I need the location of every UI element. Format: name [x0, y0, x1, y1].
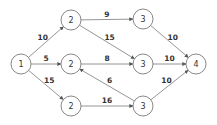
edge-weight-label: 8 — [104, 54, 109, 63]
edge-weight-label: 10 — [37, 33, 47, 42]
node-n2b: 2 — [61, 54, 81, 74]
node-label: 3 — [140, 15, 145, 24]
node-label: 2 — [68, 102, 73, 111]
edge-weight-label: 10 — [164, 54, 174, 63]
edge-weight-label: 15 — [44, 76, 54, 85]
node-label: 2 — [68, 16, 73, 25]
node-n3b: 3 — [133, 54, 153, 74]
edge-weight-label: 15 — [104, 33, 114, 42]
node-n3c: 3 — [133, 96, 153, 116]
node-label: 3 — [140, 102, 145, 111]
edge-weight-label: 5 — [43, 54, 48, 63]
edge-weight-label: 9 — [104, 10, 109, 19]
edge-weight-label: 6 — [107, 76, 112, 85]
edge-weight-label: 10 — [161, 76, 171, 85]
node-n4: 4 — [186, 54, 206, 74]
node-label: 4 — [193, 60, 198, 69]
edge-weight-label: 16 — [102, 96, 112, 105]
network-diagram: 105159158166101010 12223334 — [0, 0, 217, 125]
node-label: 3 — [140, 60, 145, 69]
node-n1: 1 — [11, 54, 31, 74]
edge — [81, 19, 133, 20]
node-n2c: 2 — [61, 96, 81, 116]
node-n3a: 3 — [133, 9, 153, 29]
node-label: 1 — [18, 60, 23, 69]
node-label: 2 — [68, 60, 73, 69]
node-n2a: 2 — [61, 10, 81, 30]
edge-weight-label: 10 — [168, 33, 178, 42]
